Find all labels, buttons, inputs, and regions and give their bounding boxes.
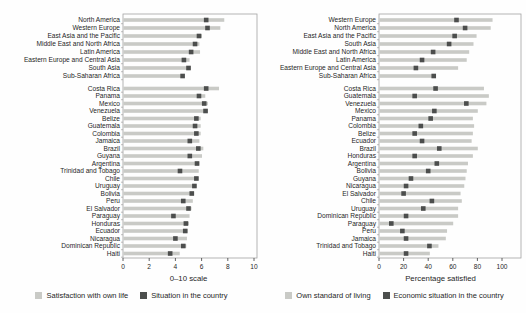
x-tick-label: 0: [377, 263, 381, 270]
marker: [194, 131, 199, 136]
x-tick-label: 60: [449, 263, 457, 270]
category-label: Haiti: [363, 250, 377, 257]
x-tick-label: 8: [226, 263, 230, 270]
category-label: Colombia: [348, 122, 376, 129]
bar: [123, 207, 191, 211]
bar: [123, 117, 200, 121]
marker: [186, 66, 191, 71]
bar: [123, 147, 203, 151]
bar: [379, 199, 461, 203]
marker: [181, 244, 186, 249]
category-label: North America: [78, 16, 120, 23]
marker: [389, 221, 394, 226]
bar: [379, 94, 488, 98]
category-label: Jamaica: [351, 235, 376, 242]
category-label: South Asia: [344, 40, 376, 47]
bar: [379, 117, 472, 121]
marker: [432, 109, 437, 114]
bar: [123, 94, 205, 98]
marker: [186, 206, 191, 211]
percentage-satisfied-chart-svg: Western EuropeNorth AmericaEast Asia and…: [263, 0, 526, 290]
legend-item-standard-of-living: Own standard of living: [285, 291, 370, 300]
marker: [194, 116, 199, 121]
marker: [412, 131, 417, 136]
marker: [401, 191, 406, 196]
x-axis-label: 0–10 scale: [170, 274, 208, 283]
bar: [123, 18, 224, 22]
category-label: Mexico: [99, 100, 120, 107]
light-swatch-icon: [35, 292, 42, 299]
bar: [379, 66, 458, 70]
category-label: Eastern Europe and Central Asia: [280, 64, 376, 72]
marker: [404, 236, 409, 241]
bar: [123, 132, 200, 136]
marker: [168, 251, 173, 256]
category-label: El Salvador: [86, 205, 121, 212]
category-label: Eastern Europe and Central Asia: [24, 56, 120, 64]
x-tick-label: 6: [200, 263, 204, 270]
category-label: Peru: [362, 227, 376, 234]
marker: [180, 74, 185, 79]
bar: [379, 184, 464, 188]
marker: [197, 34, 202, 39]
legend-label: Situation in the country: [151, 291, 227, 300]
marker: [426, 169, 431, 174]
category-label: East Asia and the Pacific: [47, 32, 120, 39]
bar: [379, 162, 468, 166]
marker: [202, 101, 207, 106]
marker: [182, 58, 187, 63]
percentage-satisfied-chart: Western EuropeNorth AmericaEast Asia and…: [263, 0, 526, 313]
bar: [379, 74, 434, 78]
marker: [196, 146, 201, 151]
legend-label: Satisfaction with own life: [46, 291, 128, 300]
category-label: El Salvador: [342, 190, 377, 197]
bar: [123, 74, 181, 78]
category-label: Guatemala: [344, 92, 377, 99]
bar: [123, 229, 187, 233]
bar: [123, 50, 200, 54]
marker: [189, 50, 194, 55]
marker: [409, 176, 414, 181]
category-label: Chile: [361, 197, 376, 204]
marker: [414, 66, 419, 71]
bar: [379, 132, 472, 136]
category-label: Panama: [351, 115, 376, 122]
x-tick-label: 80: [474, 263, 482, 270]
category-label: Middle East and North Africa: [292, 48, 376, 55]
marker: [204, 18, 209, 23]
marker: [452, 34, 457, 39]
x-tick-label: 20: [400, 263, 408, 270]
dark-swatch-icon: [140, 292, 147, 299]
bar: [379, 102, 486, 106]
marker: [194, 176, 199, 181]
category-label: South Asia: [88, 64, 120, 71]
marker: [193, 124, 198, 129]
legend-item-own-life: Satisfaction with own life: [35, 291, 128, 300]
marker: [430, 199, 435, 204]
satisfaction-scale-chart: North AmericaWestern EuropeEast Asia and…: [0, 0, 263, 313]
marker: [197, 94, 202, 99]
marker: [431, 74, 436, 79]
bar: [123, 244, 186, 248]
bar: [379, 214, 458, 218]
category-label: Costa Rica: [344, 85, 377, 92]
category-label: Panama: [95, 92, 120, 99]
legend-item-country-situation: Situation in the country: [140, 291, 227, 300]
category-label: Sub-Saharan Africa: [63, 72, 121, 79]
category-label: Jamaica: [95, 137, 120, 144]
bar: [123, 58, 189, 62]
marker: [454, 18, 459, 23]
bar: [123, 184, 196, 188]
bar: [379, 87, 484, 91]
bar: [379, 139, 471, 143]
category-label: Costa Rica: [88, 85, 121, 92]
category-label: Sub-Saharan Africa: [319, 72, 377, 79]
category-label: Western Europe: [72, 24, 120, 32]
marker: [464, 101, 469, 106]
marker: [192, 184, 197, 189]
category-label: Latin America: [80, 48, 120, 55]
bar: [123, 124, 200, 128]
marker: [421, 206, 426, 211]
bar: [123, 192, 194, 196]
marker: [437, 146, 442, 151]
